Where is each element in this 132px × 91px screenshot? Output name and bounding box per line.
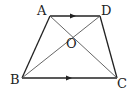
- diagonal-BD: [22, 16, 100, 78]
- vertex-label-C: C: [117, 76, 127, 91]
- diagonal-AC: [50, 16, 117, 78]
- parallel-arrow-icon-AD: [70, 14, 76, 19]
- parallel-arrow-icon-BC: [66, 76, 72, 81]
- vertex-label-D: D: [101, 3, 111, 18]
- vertex-label-B: B: [10, 72, 20, 87]
- trapezoid-diagram: A D B C O: [0, 0, 132, 91]
- side-DC: [100, 16, 117, 78]
- vertex-label-A: A: [36, 3, 47, 18]
- intersection-label-O: O: [66, 36, 77, 51]
- side-AB: [22, 16, 50, 78]
